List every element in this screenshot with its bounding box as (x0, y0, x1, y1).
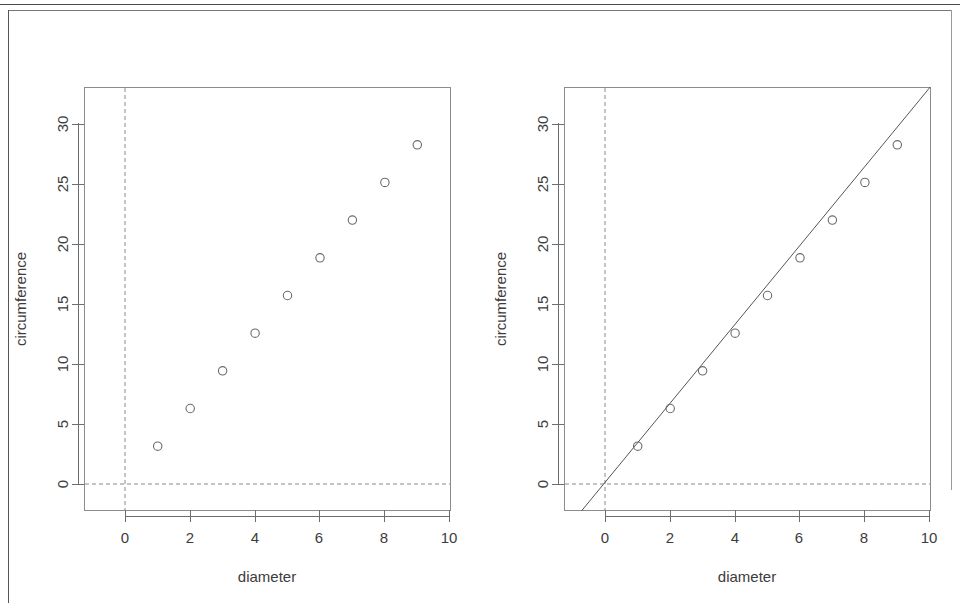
data-point (666, 404, 674, 412)
left-data-points (154, 141, 422, 451)
data-point (796, 254, 804, 262)
left-panel: 0 5 10 15 20 25 30 0 2 (0, 0, 480, 603)
right-x-axis: 0 2 4 6 8 10 (601, 510, 938, 546)
right-xtick-8: 8 (860, 529, 868, 546)
right-ytick-25: 25 (534, 176, 551, 193)
left-xtick-10: 10 (441, 529, 458, 546)
right-ytick-5: 5 (534, 420, 551, 428)
left-ytick-15: 15 (54, 296, 71, 313)
data-point (861, 178, 869, 186)
left-yaxis-title: circumference (12, 252, 29, 346)
right-y-axis: 0 5 10 15 20 25 30 (534, 116, 565, 489)
right-xtick-0: 0 (601, 529, 609, 546)
right-yaxis-title: circumference (492, 252, 509, 346)
left-xtick-6: 6 (315, 529, 323, 546)
data-point (154, 442, 162, 450)
right-ytick-10: 10 (534, 356, 551, 373)
scanned-page: 0 5 10 15 20 25 30 0 2 (0, 0, 960, 603)
left-y-axis: 0 5 10 15 20 25 30 (54, 116, 85, 489)
right-reference-lines (565, 88, 930, 510)
right-ytick-15: 15 (534, 296, 551, 313)
right-ytick-30: 30 (534, 116, 551, 133)
data-point (893, 141, 901, 149)
figure-two-panel-scatter: 0 5 10 15 20 25 30 0 2 (0, 0, 960, 603)
left-ytick-5: 5 (54, 420, 71, 428)
left-xtick-2: 2 (186, 529, 194, 546)
data-point (251, 329, 259, 337)
data-point (698, 367, 706, 375)
right-xtick-6: 6 (795, 529, 803, 546)
data-point (186, 404, 194, 412)
data-point (413, 141, 421, 149)
data-point (763, 291, 771, 299)
left-ytick-30: 30 (54, 116, 71, 133)
left-xtick-0: 0 (121, 529, 129, 546)
left-xaxis-title: diameter (238, 568, 296, 585)
right-regression-line (579, 80, 936, 514)
left-plot-box (85, 88, 451, 511)
right-ytick-20: 20 (534, 236, 551, 253)
data-point (316, 254, 324, 262)
left-ytick-0: 0 (54, 480, 71, 488)
right-panel: 0 5 10 15 20 25 30 0 2 (480, 0, 960, 603)
right-xtick-4: 4 (731, 529, 739, 546)
left-ytick-20: 20 (54, 236, 71, 253)
right-xtick-10: 10 (921, 529, 938, 546)
data-point (283, 291, 291, 299)
left-xtick-8: 8 (380, 529, 388, 546)
right-ytick-0: 0 (534, 480, 551, 488)
left-ytick-25: 25 (54, 176, 71, 193)
right-xaxis-title: diameter (718, 568, 776, 585)
right-data-points (634, 141, 902, 451)
left-ytick-10: 10 (54, 356, 71, 373)
data-point (381, 178, 389, 186)
data-point (828, 216, 836, 224)
data-point (731, 329, 739, 337)
left-x-axis: 0 2 4 6 8 10 (121, 510, 458, 546)
left-panel-plot: 0 5 10 15 20 25 30 0 2 (0, 0, 480, 603)
data-point (218, 367, 226, 375)
right-panel-plot: 0 5 10 15 20 25 30 0 2 (480, 0, 960, 603)
right-xtick-2: 2 (666, 529, 674, 546)
left-reference-lines (85, 88, 450, 510)
data-point (348, 216, 356, 224)
left-xtick-4: 4 (251, 529, 259, 546)
right-plot-box (565, 88, 931, 511)
